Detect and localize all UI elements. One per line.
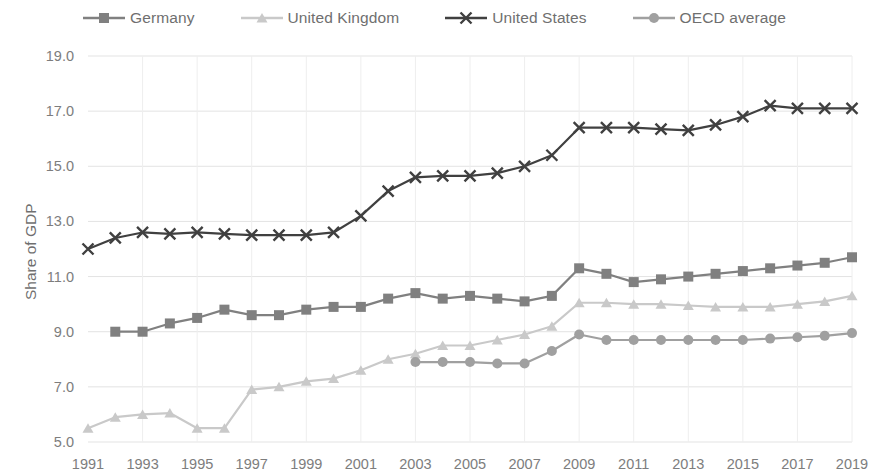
marker-square: [629, 277, 639, 287]
marker-square: [383, 294, 393, 304]
y-axis-tick-label: 15.0: [46, 158, 74, 174]
x-axis-tick-label: 2013: [672, 456, 704, 472]
x-axis-tick-label: 2003: [399, 456, 431, 472]
y-axis-tick-label: 5.0: [54, 434, 74, 450]
marker-square: [574, 263, 584, 273]
marker-square: [547, 291, 557, 301]
marker-square: [683, 272, 693, 282]
x-axis-tick-label: 1999: [290, 456, 322, 472]
x-axis-tick-label: 2019: [836, 456, 868, 472]
x-axis-tick-label: 1991: [72, 456, 104, 472]
x-axis-tick-label: 2001: [345, 456, 377, 472]
marker-cross: [383, 186, 394, 197]
y-axis-tick-label: 17.0: [46, 103, 74, 119]
marker-circle: [520, 358, 530, 368]
marker-circle: [574, 329, 584, 339]
series-germany: [110, 252, 857, 336]
marker-circle: [438, 357, 448, 367]
marker-square: [410, 288, 420, 298]
marker-square: [138, 327, 148, 337]
marker-circle: [465, 357, 475, 367]
x-axis-tick-label: 1993: [126, 456, 158, 472]
marker-square: [356, 302, 366, 312]
marker-cross: [83, 244, 94, 255]
marker-cross: [546, 150, 557, 161]
marker-circle: [847, 328, 857, 338]
marker-square: [656, 274, 666, 284]
marker-square: [792, 261, 802, 271]
y-axis-tick-label: 11.0: [47, 269, 74, 285]
marker-circle: [711, 335, 721, 345]
x-axis-tick-label: 2007: [508, 456, 540, 472]
y-axis-tick-label: 9.0: [54, 324, 74, 340]
x-axis-tick-label: 2009: [563, 456, 595, 472]
marker-square: [601, 269, 611, 279]
marker-circle: [820, 331, 830, 341]
marker-square: [520, 296, 530, 306]
marker-square: [165, 318, 175, 328]
marker-square: [192, 313, 202, 323]
marker-square: [738, 266, 748, 276]
marker-circle: [683, 335, 693, 345]
marker-square: [274, 310, 284, 320]
x-axis-tick-label: 2015: [727, 456, 759, 472]
marker-square: [820, 258, 830, 268]
marker-circle: [410, 357, 420, 367]
marker-square: [711, 269, 721, 279]
marker-circle: [792, 332, 802, 342]
y-axis-tick-label: 13.0: [46, 213, 74, 229]
line-chart-plot: 19.017.015.013.011.09.07.05.019911993199…: [0, 0, 869, 474]
marker-triangle: [83, 423, 94, 433]
marker-circle: [629, 335, 639, 345]
marker-circle: [547, 346, 557, 356]
marker-square: [765, 263, 775, 273]
marker-square: [329, 302, 339, 312]
y-axis-tick-label: 7.0: [54, 379, 74, 395]
marker-circle: [601, 335, 611, 345]
marker-circle: [656, 335, 666, 345]
marker-circle: [492, 358, 502, 368]
marker-triangle: [355, 365, 366, 375]
marker-circle: [738, 335, 748, 345]
marker-square: [110, 327, 120, 337]
marker-square: [438, 294, 448, 304]
marker-square: [247, 310, 257, 320]
marker-square: [301, 305, 311, 315]
marker-square: [492, 294, 502, 304]
x-axis-tick-label: 2011: [618, 456, 649, 472]
x-axis-tick-label: 1995: [181, 456, 213, 472]
x-axis-tick-label: 2005: [454, 456, 486, 472]
marker-square: [847, 252, 857, 262]
marker-circle: [765, 334, 775, 344]
marker-square: [219, 305, 229, 315]
marker-square: [465, 291, 475, 301]
x-axis-tick-label: 1997: [236, 456, 268, 472]
y-axis-tick-label: 19.0: [46, 48, 74, 64]
x-axis-tick-label: 2017: [781, 456, 813, 472]
chart-container: GermanyUnited KingdomUnited StatesOECD a…: [0, 0, 869, 474]
